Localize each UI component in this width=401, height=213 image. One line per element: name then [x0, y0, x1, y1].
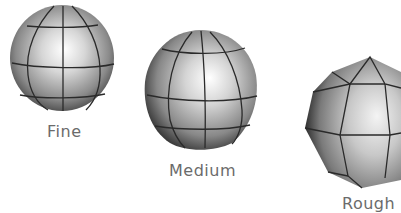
fine-sphere: [10, 5, 114, 111]
spheres-illustration: [0, 0, 401, 213]
label-medium: Medium: [169, 162, 236, 180]
medium-sphere: [145, 30, 257, 150]
label-rough: Rough: [342, 195, 395, 213]
rough-polyhedron: [305, 57, 401, 188]
subdivision-levels-diagram: Fine Medium Rough: [0, 0, 401, 213]
label-fine: Fine: [47, 123, 81, 141]
